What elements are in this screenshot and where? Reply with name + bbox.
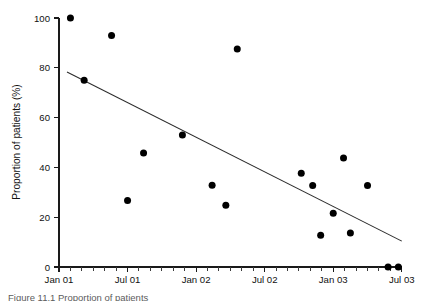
data-point xyxy=(108,32,115,39)
y-axis-group: 100 80 60 40 20 0 Proportion of patients… xyxy=(11,13,59,273)
x-tick-label-jan-01: Jan 01 xyxy=(45,274,74,285)
y-tick-label-20: 20 xyxy=(39,212,50,223)
x-axis-group: Jan 01 Jul 01 Jan 02 Jul 02 Jan 03 Jul 0… xyxy=(45,267,415,285)
data-points-group xyxy=(67,15,402,271)
y-tick-label-0: 0 xyxy=(45,262,50,273)
y-tick-label-80: 80 xyxy=(39,62,50,73)
figure-caption: Figure 11.1 Proportion of patients xyxy=(8,292,428,301)
data-point xyxy=(395,264,402,271)
data-point xyxy=(234,45,241,52)
regression-trend-line xyxy=(67,72,402,241)
y-tick-label-40: 40 xyxy=(39,162,50,173)
data-point xyxy=(67,15,74,22)
data-point xyxy=(222,202,229,209)
data-point xyxy=(124,197,131,204)
scatter-chart: 100 80 60 40 20 0 Proportion of patients… xyxy=(0,0,434,301)
data-point xyxy=(317,232,324,239)
figure-root: 100 80 60 40 20 0 Proportion of patients… xyxy=(0,0,434,301)
x-axis-tick-labels: Jan 01 Jul 01 Jan 02 Jul 02 Jan 03 Jul 0… xyxy=(45,274,415,285)
data-point xyxy=(309,182,316,189)
data-point xyxy=(364,182,371,189)
y-axis-ticks xyxy=(54,18,59,267)
x-tick-label-jul-02: Jul 02 xyxy=(252,274,278,285)
data-point xyxy=(209,182,216,189)
data-point xyxy=(179,132,186,139)
x-tick-label-jan-03: Jan 03 xyxy=(319,274,348,285)
data-point xyxy=(347,229,354,236)
y-axis-tick-labels: 100 80 60 40 20 0 xyxy=(34,13,50,273)
data-point xyxy=(340,154,347,161)
trend-line-segment xyxy=(67,72,402,241)
y-tick-label-100: 100 xyxy=(34,13,50,24)
data-point xyxy=(385,264,392,271)
x-tick-label-jan-02: Jan 02 xyxy=(182,274,211,285)
data-point xyxy=(298,170,305,177)
y-axis-title: Proportion of patients (%) xyxy=(11,84,22,200)
x-tick-label-jul-01: Jul 01 xyxy=(115,274,141,285)
x-tick-label-jul-03: Jul 03 xyxy=(389,274,415,285)
data-point xyxy=(140,149,147,156)
data-point xyxy=(330,210,337,217)
data-point xyxy=(81,77,88,84)
y-tick-label-60: 60 xyxy=(39,112,50,123)
